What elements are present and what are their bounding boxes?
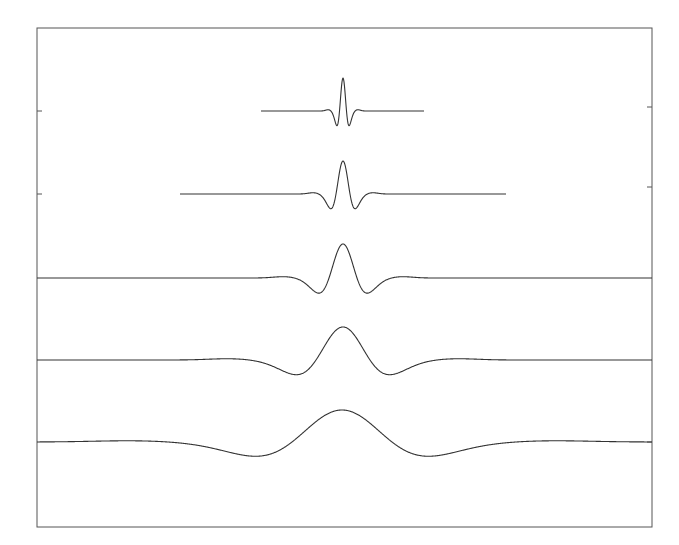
wavelet-trace-2	[180, 161, 506, 209]
wavelet-trace-5	[37, 410, 652, 456]
wavelet-trace-1	[261, 78, 424, 126]
wavelet-traces	[37, 78, 652, 456]
axis-ticks	[37, 107, 652, 442]
wavelet-trace-3	[37, 244, 652, 293]
wavelet-chart	[0, 0, 679, 545]
wavelet-trace-4	[37, 327, 652, 375]
